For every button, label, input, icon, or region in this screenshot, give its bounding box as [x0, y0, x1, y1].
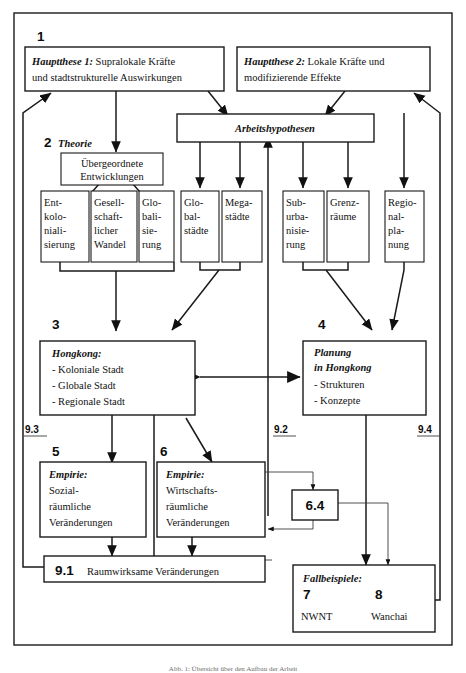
label-9-1: 9.1: [55, 563, 74, 578]
globalisierung-l1: Glo-: [142, 197, 162, 208]
box-planung-in-hongkong[interactable]: Planung in Hongkong - Strukturen - Konze…: [303, 341, 426, 415]
svg-text:9.3: 9.3: [25, 424, 39, 435]
arrow-global-to-hongkong: [172, 270, 219, 330]
hauptthese2-lead: Hauptthese 2:: [243, 56, 305, 67]
uebergeordnete-line2: Entwicklungen: [80, 171, 144, 182]
section-number-2: 2: [44, 135, 52, 150]
box-empirie-wirtschaftsraeumlich[interactable]: Empirie: Wirtschafts- räumliche Veränder…: [157, 462, 265, 537]
section-number-8: 8: [375, 587, 383, 602]
case-wanchai: Wanchai: [371, 611, 408, 622]
box-empirie-sozialraeumlich[interactable]: Empirie: Sozial- räumliche Veränderungen: [40, 462, 146, 537]
empirie-sozial-l0: Sozial-: [49, 485, 79, 496]
box-entkolonialisierung[interactable]: Ent- kolo- niali- sierung: [41, 191, 89, 262]
bus-theory-trio: [60, 262, 174, 271]
globalstaedte-l2: bal-: [184, 211, 201, 222]
hongkong-title: Hongkong:: [51, 348, 102, 359]
planung-title1: Planung: [314, 347, 351, 358]
hongkong-item-1: - Globale Stadt: [52, 380, 116, 391]
regional-l3: pla-: [388, 225, 405, 236]
uebergeordnete-line1: Übergeordnete: [81, 158, 144, 169]
hauptthese1-line2: und stadtstrukturelle Auswirkungen: [32, 72, 183, 83]
regional-l1: Regio-: [388, 197, 417, 208]
entkolonialisierung-l2: kolo-: [44, 211, 67, 222]
section-number-5: 5: [52, 444, 60, 459]
megastaedte-l2: städte: [225, 211, 250, 222]
box-9-1-raumwirksame[interactable]: 9.1 Raumwirksame Veränderungen: [44, 556, 265, 582]
regional-l2: nal-: [388, 211, 405, 222]
suburb-l2: urba-: [286, 211, 309, 222]
entkolonialisierung-l3: niali-: [44, 225, 67, 236]
section-number-1: 1: [37, 29, 45, 44]
arrow-hongkong-to-empirie-wirtschaft: [186, 418, 212, 462]
hauptthese1-lead: Hauptthese 1:: [31, 56, 93, 67]
svg-text:9.2: 9.2: [274, 424, 288, 435]
box-uebergeordnete-entwicklungen[interactable]: Übergeordnete Entwicklungen: [61, 153, 163, 185]
section-number-6: 6: [160, 444, 168, 459]
arrow-h1-to-hypo: [208, 91, 228, 116]
empirie-sozial-l2: Veränderungen: [49, 517, 113, 528]
gesellschaft-l3: licher: [94, 225, 118, 236]
fallbeispiele-title: Fallbeispiele:: [302, 573, 362, 584]
box-grenzraeume[interactable]: Grenz- räume: [327, 191, 369, 262]
svg-text:9.4: 9.4: [418, 424, 432, 435]
case-nwnt: NWNT: [301, 611, 333, 622]
theorie-label: Theorie: [58, 138, 92, 149]
section-number-4: 4: [318, 317, 326, 332]
section-number-3: 3: [52, 317, 60, 332]
arrow-h2-to-hypo: [325, 91, 345, 116]
empirie-wirtschaft-l0: Wirtschafts-: [166, 485, 218, 496]
suburb-l3: nisie-: [286, 225, 310, 236]
marker-9-2: 9.2: [273, 424, 296, 436]
globalisierung-l4: rung: [142, 239, 162, 250]
box-gesellschaftlicher-wandel[interactable]: Gesell- schaft- licher Wandel: [91, 191, 137, 262]
label-6-4: 6.4: [306, 498, 325, 513]
diagram-canvas: 1 Hauptthese 1: Supralokale Kräfte und s…: [0, 0, 466, 673]
empirie-sozial-title: Empirie:: [48, 469, 88, 480]
flow-diagram: 1 Hauptthese 1: Supralokale Kräfte und s…: [0, 0, 466, 673]
box-suburbanisierung[interactable]: Sub- urba- nisie- rung: [283, 191, 324, 262]
empirie-wirtschaft-l2: Veränderungen: [166, 517, 230, 528]
marker-9-3: 9.3: [24, 424, 47, 436]
box-fallbeispiele[interactable]: Fallbeispiele: 7 8 NWNT Wanchai: [293, 565, 435, 632]
line-wirtschaft-to-64: [265, 472, 313, 490]
planung-item-1: - Konzepte: [314, 395, 361, 406]
svg-text:Hauptthese 2: Lokale Kräfte un: Hauptthese 2: Lokale Kräfte und: [243, 56, 385, 67]
planung-item-0: - Strukturen: [314, 379, 365, 390]
suburb-l1: Sub-: [286, 197, 306, 208]
outer-frame: [14, 13, 452, 645]
bus-sub-grenz: [303, 262, 348, 270]
box-hongkong[interactable]: Hongkong: - Koloniale Stadt - Globale St…: [40, 341, 195, 415]
gesellschaft-l4: Wandel: [94, 239, 126, 250]
empirie-sozial-l1: räumliche: [49, 501, 91, 512]
entkolonialisierung-l4: sierung: [44, 239, 76, 250]
svg-text:Hauptthese 1: Supralokale Kräf: Hauptthese 1: Supralokale Kräfte: [31, 56, 176, 67]
arbeitshypothesen-label: Arbeitshypothesen: [234, 123, 315, 134]
gesellschaft-l2: schaft-: [94, 211, 123, 222]
globalstaedte-l3: städte: [184, 225, 209, 236]
regional-l4: nung: [388, 239, 410, 250]
empirie-wirtschaft-title: Empirie:: [165, 469, 205, 480]
suburb-l4: rung: [286, 239, 306, 250]
section-number-7: 7: [303, 587, 311, 602]
figure-caption: Abb. 1: Übersicht über den Aufbau der Ar…: [0, 665, 466, 673]
box-arbeitshypothesen[interactable]: Arbeitshypothesen: [177, 114, 374, 142]
globalisierung-l2: bali-: [142, 211, 162, 222]
box-6-4[interactable]: 6.4: [292, 490, 338, 520]
bus-global-mega: [200, 262, 240, 270]
gesellschaft-l1: Gesell-: [94, 197, 125, 208]
hauptthese1-rest: Supralokale Kräfte: [93, 56, 176, 67]
line-64-to-fallbeispiele: [338, 503, 388, 565]
box-hauptthese-2[interactable]: Hauptthese 2: Lokale Kräfte und modifizi…: [237, 47, 430, 91]
box-globalstaedte[interactable]: Glo- bal- städte: [181, 191, 219, 262]
empirie-wirtschaft-l1: räumliche: [166, 501, 208, 512]
arrow-sub-to-planung: [326, 270, 372, 330]
raumwirksame-label: Raumwirksame Veränderungen: [87, 566, 220, 577]
megastaedte-l1: Mega-: [225, 197, 253, 208]
box-megastaedte[interactable]: Mega- städte: [222, 191, 262, 262]
box-regionalplanung[interactable]: Regio- nal- pla- nung: [385, 191, 424, 262]
marker-9-4: 9.4: [417, 424, 440, 436]
box-hauptthese-1[interactable]: Hauptthese 1: Supralokale Kräfte und sta…: [25, 47, 224, 91]
globalisierung-l3: sie-: [142, 225, 158, 236]
box-globalisierung[interactable]: Glo- bali- sie- rung: [139, 191, 174, 262]
arrow-regional-to-planung: [392, 262, 404, 330]
